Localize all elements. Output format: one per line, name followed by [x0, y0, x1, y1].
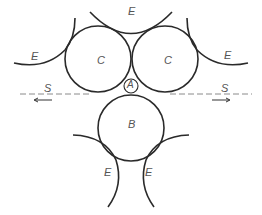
diagram-graphics: [0, 0, 262, 215]
label-s-left: S: [44, 83, 51, 94]
arc-e-left: [14, 18, 75, 65]
circle-packing-diagram: E E E C C A B E E S S: [0, 0, 262, 215]
label-e-bottom-right: E: [145, 167, 152, 178]
label-a: A: [127, 80, 134, 90]
arc-e-right: [187, 18, 248, 65]
label-e-left: E: [31, 51, 38, 62]
label-c-right: C: [164, 55, 172, 66]
arrow-right-icon: [212, 98, 230, 102]
label-s-right: S: [221, 83, 228, 94]
label-e-top: E: [128, 6, 135, 17]
arc-e-bottom-left: [73, 135, 119, 207]
label-c-left: C: [97, 55, 105, 66]
label-b: B: [128, 119, 135, 130]
arrow-left-icon: [34, 98, 52, 102]
label-e-bottom-left: E: [104, 167, 111, 178]
label-e-right: E: [224, 50, 231, 61]
